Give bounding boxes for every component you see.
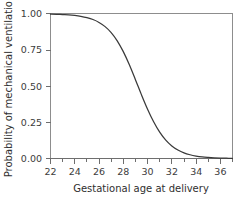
y-tick-label-100: 1.00 xyxy=(21,8,42,19)
x-tick-label-22: 22 xyxy=(44,166,56,177)
x-tick-label-34: 34 xyxy=(190,166,202,177)
x-tick-label-26: 26 xyxy=(93,166,105,177)
x-tick-label-36: 36 xyxy=(214,166,226,177)
y-tick-label-075: 0.75 xyxy=(21,44,42,55)
y-tick-label-000: 0.00 xyxy=(21,153,42,164)
x-tick-label-24: 24 xyxy=(69,166,81,177)
x-axis-title: Gestational age at delivery xyxy=(73,183,209,194)
y-tick-label-025: 0.25 xyxy=(21,117,42,128)
y-axis-title: Probability of mechanical ventilation xyxy=(3,0,14,177)
y-axis-major-ticks xyxy=(46,14,51,159)
x-tick-label-28: 28 xyxy=(117,166,129,177)
plot-frame xyxy=(51,14,233,159)
y-tick-label-050: 0.50 xyxy=(21,81,42,92)
probability-curve xyxy=(51,14,233,158)
x-tick-label-32: 32 xyxy=(166,166,178,177)
x-tick-label-30: 30 xyxy=(142,166,154,177)
chart-figure: 22 24 26 28 30 32 34 36 0.00 0.25 0.50 0… xyxy=(0,0,243,204)
sigmoid-line-chart: 22 24 26 28 30 32 34 36 0.00 0.25 0.50 0… xyxy=(0,0,243,204)
